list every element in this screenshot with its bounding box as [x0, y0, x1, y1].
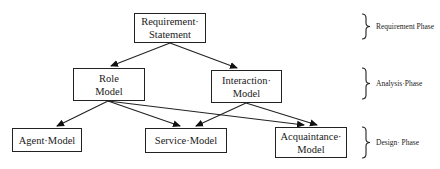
right-brace-icon: [360, 13, 372, 40]
edge-requirement-to-role: [111, 43, 170, 66]
edge-requirement-to-interaction: [170, 43, 237, 68]
phase-label: Design· Phase: [376, 138, 419, 147]
node-label-line: Role: [99, 72, 119, 85]
node-label-line: Model: [297, 143, 324, 156]
node-service-model: Service·Model: [145, 128, 227, 153]
node-label-line: Acquaintance·: [280, 130, 341, 143]
node-agent-model: Agent·Model: [12, 128, 82, 152]
node-role-model: Role Model: [73, 68, 145, 101]
node-label-line: Model: [95, 85, 122, 98]
edge-role-to-service: [108, 101, 180, 126]
phase-label: Requirement Phase: [376, 22, 434, 31]
right-brace-icon: [360, 126, 372, 159]
edge-interaction-to-service: [196, 103, 246, 126]
node-acquaintance-model: Acquaintance· Model: [275, 127, 347, 158]
phase-analysis: Analysis·Phase: [360, 67, 422, 100]
node-requirement-statement: Requirement· Statement: [134, 13, 206, 43]
node-label-line: Service·Model: [155, 134, 217, 147]
node-label-line: Agent·Model: [19, 134, 76, 147]
phase-requirement: Requirement Phase: [360, 13, 434, 40]
node-label-line: Statement: [149, 28, 191, 41]
phase-design: Design· Phase: [360, 126, 419, 159]
phase-label: Analysis·Phase: [376, 79, 422, 88]
node-label-line: Interaction·: [222, 74, 271, 87]
node-label-line: Model: [233, 87, 260, 100]
node-interaction-model: Interaction· Model: [211, 70, 282, 103]
node-label-line: Requirement·: [141, 15, 199, 28]
edge-role-to-agent: [57, 101, 108, 126]
right-brace-icon: [360, 67, 372, 100]
